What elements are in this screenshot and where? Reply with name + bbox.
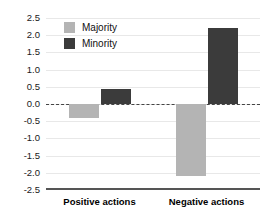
gridline bbox=[46, 173, 260, 174]
legend-item-majority: Majority bbox=[64, 22, 117, 33]
legend-label-majority: Majority bbox=[82, 23, 117, 33]
legend-item-minority: Minority bbox=[64, 38, 117, 49]
gridline bbox=[46, 18, 260, 19]
gridline bbox=[46, 138, 260, 139]
y-tick-label: 0.0 bbox=[6, 99, 40, 109]
legend-label-minority: Minority bbox=[82, 39, 117, 49]
gridline bbox=[46, 121, 260, 122]
x-tick-label: Negative actions bbox=[169, 196, 245, 207]
bar-majority-positive bbox=[69, 104, 99, 118]
x-axis-labels: Positive actionsNegative actions bbox=[46, 196, 260, 216]
y-tick-label: 1.0 bbox=[6, 65, 40, 75]
y-tick-label: 2.0 bbox=[6, 30, 40, 40]
bar-minority-negative bbox=[208, 28, 238, 104]
y-tick-label: -2.0 bbox=[6, 168, 40, 178]
x-tick-label: Positive actions bbox=[63, 196, 135, 207]
y-tick-label: -2.5 bbox=[6, 185, 40, 195]
bar-minority-positive bbox=[101, 89, 131, 104]
legend: Majority Minority bbox=[64, 22, 117, 49]
y-tick-label: 1.5 bbox=[6, 48, 40, 58]
x-axis-line bbox=[46, 188, 260, 190]
bar-majority-negative bbox=[176, 104, 206, 176]
legend-swatch-majority bbox=[64, 22, 75, 33]
y-tick-label: -0.5 bbox=[6, 116, 40, 126]
y-tick-label: 2.5 bbox=[6, 13, 40, 23]
y-tick-label: 0.5 bbox=[6, 82, 40, 92]
bar-chart: 2.52.01.51.00.50.0-0.5-1.0-1.5-2.0-2.5 M… bbox=[0, 0, 268, 220]
gridline bbox=[46, 156, 260, 157]
y-tick-label: -1.5 bbox=[6, 151, 40, 161]
legend-swatch-minority bbox=[64, 38, 75, 49]
y-tick-label: -1.0 bbox=[6, 134, 40, 144]
